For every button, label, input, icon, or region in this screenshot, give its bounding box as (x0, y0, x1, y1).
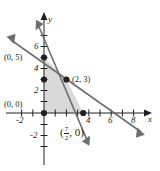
point-2-3 (63, 76, 69, 82)
x-tick-label-neg2: -2 (16, 115, 24, 125)
point-label-0-0: (0, 0) (4, 99, 22, 109)
x-tick-label-8: 8 (131, 115, 136, 125)
fraction-seven-halves: 72 (64, 126, 70, 142)
x-axis-label: x (148, 114, 152, 124)
point-0-0 (41, 110, 47, 116)
shallow-line-arrowhead-topleft (7, 34, 16, 44)
point-label-2-3: (2, 3) (72, 74, 90, 84)
point-0-5 (41, 54, 47, 60)
point-label-0-5: (0, 5) (4, 52, 22, 62)
y-axis-label: y (48, 14, 52, 24)
graph-figure: x y -2 4 6 8 6 4 2 -2 (0, 5) (2, 3) (0, … (0, 0, 160, 171)
y-tick-label-neg2: -2 (30, 130, 38, 140)
coordinate-plane-svg (0, 0, 160, 171)
y-tick-label-4: 4 (34, 63, 39, 73)
boundary-line-shallow (11, 40, 140, 132)
fraction-numerator: 7 (64, 126, 70, 133)
x-tick-label-6: 6 (108, 115, 113, 125)
x-tick-label-4: 4 (86, 115, 91, 125)
y-tick-label-2: 2 (34, 85, 39, 95)
paren-close-suffix: , 0) (69, 126, 84, 138)
fraction-denominator: 2 (64, 135, 70, 142)
y-axis-arrowhead (41, 12, 48, 20)
point-0-3 (41, 76, 47, 82)
y-tick-label-6: 6 (34, 41, 39, 51)
shallow-line-arrowhead-bottomright (136, 128, 145, 138)
point-label-7over2-0: (72, 0) (60, 126, 84, 142)
